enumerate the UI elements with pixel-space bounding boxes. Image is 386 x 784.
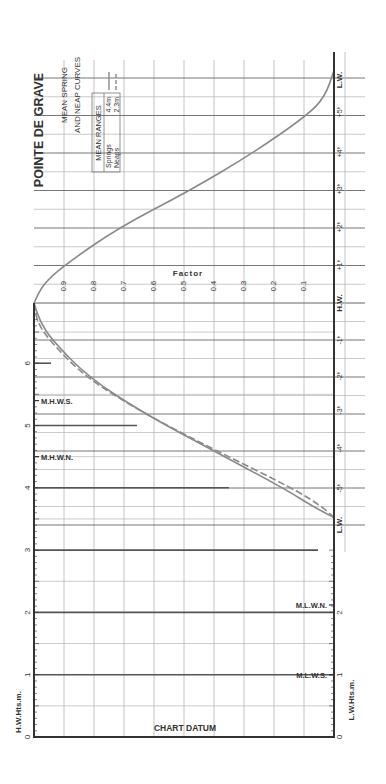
chart-subtitle: AND NEAP CURVES [73, 57, 82, 133]
time-tick-label: +1ʰ [336, 259, 343, 270]
chart-title: POINTE DE GRAVE [32, 73, 46, 187]
time-marker-label: H.W. [335, 294, 344, 311]
hw-height-tick-label: 3 [23, 547, 32, 552]
tidal-curve-chart: POINTE DE GRAVEMEAN SPRINGAND NEAP CURVE… [0, 0, 386, 784]
lw-height-tick-label: 1 [335, 672, 344, 677]
chart-subtitle: MEAN SPRING [60, 67, 69, 123]
labels: POINTE DE GRAVEMEAN SPRINGAND NEAP CURVE… [14, 57, 356, 739]
time-tick-label: -4ʰ [336, 443, 343, 452]
time-tick-label: +5ʰ [336, 106, 343, 117]
lw-height-tick-label: 0 [335, 734, 344, 739]
time-tick-label: +2ʰ [336, 221, 343, 232]
level-label: M.L.W.S. [296, 671, 327, 680]
factor-tick-label: 0.5 [179, 281, 188, 291]
legend-entry-name: Neaps [113, 147, 121, 168]
hw-heights-axis-label: H.W.Hts.m. [14, 691, 23, 733]
factor-tick-label: 0.2 [269, 281, 278, 291]
factor-tick-label: 0.7 [119, 281, 128, 291]
grid [34, 52, 365, 737]
factor-tick-label: 0.1 [299, 281, 308, 291]
level-label: M.H.W.S. [41, 397, 73, 406]
factor-tick-label: 0.9 [59, 281, 68, 291]
hw-height-tick-label: 1 [23, 672, 32, 677]
factor-tick-label: 0.6 [149, 281, 158, 291]
time-tick-label: +3ʰ [336, 183, 343, 194]
hw-height-tick-label: 4 [23, 485, 32, 490]
legend-entry-range: 4.4m [105, 97, 112, 113]
time-tick-label: -2ʰ [336, 371, 343, 380]
legend-box: MEAN RANGESSprings4.4mNeaps2.3m [92, 72, 121, 172]
time-tick-label: -1ʰ [336, 335, 343, 344]
factor-tick-label: 0.8 [89, 281, 98, 291]
chart-datum-label: CHART DATUM [154, 723, 216, 733]
hw-height-tick-label: 6 [23, 360, 32, 365]
lw-heights-axis-label: L.W.Hts.m. [347, 680, 356, 721]
factor-tick-label: 0.4 [209, 281, 218, 291]
time-tick-label: +4ʰ [336, 146, 343, 157]
time-marker-label: L.W. [335, 517, 344, 533]
factor-tick-label: 0.3 [239, 281, 248, 291]
time-tick-label: -5ʰ [336, 483, 343, 492]
hw-height-tick-label: 5 [23, 423, 32, 428]
factor-axis-label: Factor [173, 269, 203, 278]
hw-height-tick-label: 2 [23, 610, 32, 615]
legend-entry-range: 2.3m [113, 97, 120, 113]
time-tick-label: -3ʰ [336, 405, 343, 414]
level-label: M.H.W.N. [41, 453, 73, 462]
hw-height-tick-label: 0 [23, 734, 32, 739]
time-marker-label: L.W. [335, 72, 344, 88]
lw-height-tick-label: 2 [335, 610, 344, 615]
level-label: M.L.W.N. [296, 601, 327, 610]
legend-header: MEAN RANGES [94, 105, 103, 160]
legend: MEAN RANGESSprings4.4mNeaps2.3m [92, 72, 121, 172]
